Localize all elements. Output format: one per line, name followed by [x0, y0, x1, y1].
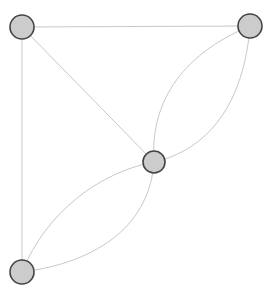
graph-edge-center-to-bottom-left	[22, 162, 154, 272]
graph-edge-top-left-to-center	[22, 27, 154, 162]
edges-layer	[22, 26, 250, 272]
graph-node-center[interactable]	[143, 151, 165, 173]
graph-node-top-left[interactable]	[10, 15, 34, 39]
graph-node-bottom-left[interactable]	[10, 260, 34, 284]
graph-edge-center-to-top-right	[154, 26, 250, 162]
graph-canvas	[0, 0, 274, 295]
graph-edge-top-left-to-top-right	[22, 26, 250, 27]
graph-edge-center-to-top-right	[154, 26, 250, 162]
graph-svg	[0, 0, 274, 295]
graph-node-top-right[interactable]	[238, 14, 262, 38]
nodes-layer	[10, 14, 262, 284]
